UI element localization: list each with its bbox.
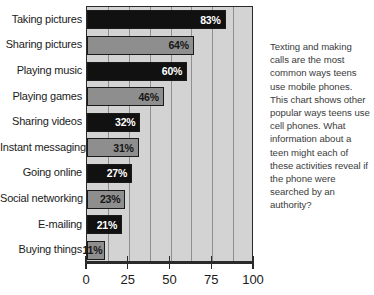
x-axis-tick-label: 75	[204, 272, 218, 287]
x-axis-tick	[127, 262, 128, 269]
bar: 21%	[87, 215, 122, 234]
x-axis-tick-label: 25	[121, 272, 135, 287]
bar-value-label: 60%	[162, 65, 186, 77]
x-axis-tick	[252, 262, 253, 269]
x-axis-tick-inner	[252, 256, 253, 262]
bar: 60%	[87, 62, 187, 81]
y-axis-label: Going online	[0, 166, 82, 178]
y-axis-label: Social networking	[0, 192, 82, 204]
y-axis-label: Playing games	[0, 90, 82, 102]
x-axis-tick	[169, 262, 170, 269]
figure: Taking picturesSharing picturesPlaying m…	[0, 0, 374, 295]
bar-value-label: 83%	[200, 14, 224, 26]
y-axis-category-labels: Taking picturesSharing picturesPlaying m…	[0, 6, 82, 262]
bar: 31%	[87, 138, 139, 157]
x-axis-tick-inner	[211, 256, 212, 262]
bar: 83%	[87, 10, 226, 29]
x-axis-tick-label: 0	[82, 272, 89, 287]
bar-value-label: 11%	[83, 244, 105, 256]
bar-chart: Taking picturesSharing picturesPlaying m…	[0, 0, 262, 295]
bar-series: 83%64%60%46%32%31%27%23%21%11%	[87, 7, 252, 261]
bar-value-label: 46%	[138, 91, 162, 103]
bar: 64%	[87, 36, 194, 55]
bar: 46%	[87, 87, 164, 106]
x-axis-tick	[211, 262, 212, 269]
caption-text: Texting and making calls are the most co…	[270, 40, 370, 212]
y-axis-label: Buying things	[0, 243, 82, 255]
x-axis-tick-inner	[169, 256, 170, 262]
bar-value-label: 21%	[97, 219, 121, 231]
y-axis-label: Taking pictures	[0, 13, 82, 25]
bar: 27%	[87, 164, 132, 183]
bar: 23%	[87, 190, 125, 209]
x-axis-tick-label: 100	[242, 272, 264, 287]
bar-value-label: 64%	[168, 39, 192, 51]
x-axis-tick	[85, 262, 86, 269]
bar: 11%	[87, 241, 105, 260]
bar-value-label: 27%	[107, 167, 131, 179]
x-axis-tick-inner	[127, 256, 128, 262]
bar-value-label: 32%	[115, 116, 139, 128]
y-axis-label: Instant messaging	[0, 141, 82, 153]
x-axis-tick-inner	[85, 256, 86, 262]
y-axis-label: Playing music	[0, 64, 82, 76]
bar-value-label: 31%	[113, 142, 137, 154]
plot-area: 83%64%60%46%32%31%27%23%21%11%	[86, 6, 253, 262]
bar-value-label: 23%	[100, 193, 124, 205]
x-axis-tick-label: 50	[162, 272, 176, 287]
y-axis-label: E-mailing	[0, 218, 82, 230]
y-axis-label: Sharing videos	[0, 115, 82, 127]
bar: 32%	[87, 113, 140, 132]
y-axis-label: Sharing pictures	[0, 38, 82, 50]
